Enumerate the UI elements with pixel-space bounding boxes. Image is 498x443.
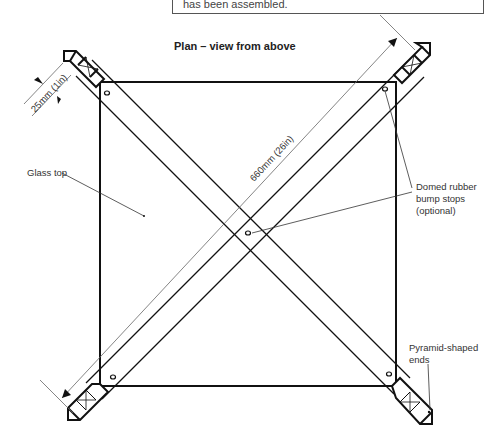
- bump-stop-tr: [383, 87, 388, 91]
- label-bump-stops-line2: bump stops: [416, 193, 477, 205]
- label-bump-stops-line3: (optional): [416, 205, 477, 217]
- bump-stop-tl: [105, 91, 110, 95]
- bump-stops: [105, 87, 392, 379]
- leader-lines: [62, 91, 430, 410]
- label-bump-stops-line1: Domed rubber: [416, 181, 477, 193]
- dim-leg-length-text: 660mm (26in): [247, 133, 295, 183]
- arrow-width-bottom: [57, 96, 61, 104]
- label-glass-top: Glass top: [27, 167, 67, 179]
- bump-stop-center: [246, 231, 251, 235]
- plan-diagram: 660mm (26in) 25mm (1in): [0, 0, 498, 443]
- label-pyramid-ends: Pyramid-shaped ends: [409, 342, 478, 366]
- leg-end-bottom-right: [392, 378, 432, 424]
- label-bump-stops: Domed rubber bump stops (optional): [416, 181, 477, 217]
- bump-stop-bl: [111, 375, 116, 379]
- label-pyramid-ends-line1: Pyramid-shaped: [409, 342, 478, 354]
- leg-end-bottom-left: [68, 384, 108, 420]
- leg-end-top-right: [394, 43, 430, 83]
- leg-end-top-left: [64, 51, 104, 87]
- arrow-width-top: [34, 77, 43, 84]
- label-pyramid-ends-line2: ends: [409, 354, 478, 366]
- leg-bl-tr: [86, 61, 424, 399]
- leg-tl-br: [76, 60, 410, 394]
- bump-stop-br: [387, 372, 392, 376]
